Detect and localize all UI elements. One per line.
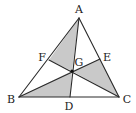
- triangle-diagram: ABCDEFG: [0, 0, 136, 113]
- centroid-point: [70, 69, 73, 72]
- label-e: E: [103, 51, 111, 64]
- label-g: G: [75, 56, 84, 69]
- point-g-dot: [70, 69, 73, 72]
- label-c: C: [123, 93, 131, 106]
- label-b: B: [7, 93, 15, 106]
- label-f: F: [38, 51, 46, 64]
- label-d: D: [65, 100, 74, 113]
- label-a: A: [74, 3, 84, 16]
